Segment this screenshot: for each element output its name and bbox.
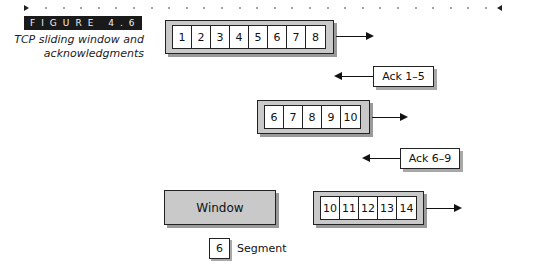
segment: 8 xyxy=(303,106,322,128)
segment: 2 xyxy=(192,26,211,48)
triangle-left-icon xyxy=(497,5,502,11)
segment: 10 xyxy=(321,197,340,219)
segment: 3 xyxy=(211,26,230,48)
arrow-right-icon xyxy=(372,113,408,121)
rule-dot xyxy=(432,7,434,9)
rule-dot xyxy=(327,7,329,9)
segment: 8 xyxy=(306,26,325,48)
rule-dot xyxy=(256,7,258,9)
legend-segment-box: 6 xyxy=(209,238,230,259)
segment-strip-2: 6 7 8 9 10 xyxy=(264,105,361,129)
rule-dot xyxy=(186,7,188,9)
segment: 11 xyxy=(340,197,359,219)
ack-box-2: Ack 6–9 xyxy=(400,148,460,169)
segment: 6 xyxy=(265,106,284,128)
segment: 10 xyxy=(341,106,360,128)
rule-dot xyxy=(362,7,364,9)
rule-dot xyxy=(397,7,399,9)
rule-dot xyxy=(80,7,82,9)
rule-dot xyxy=(239,7,241,9)
window-row-2: 6 7 8 9 10 xyxy=(257,100,370,134)
segment: 12 xyxy=(359,197,378,219)
rule-dot xyxy=(221,7,223,9)
rule-dot xyxy=(450,7,452,9)
segment: 5 xyxy=(249,26,268,48)
figure-caption: TCP sliding window and acknowledgments xyxy=(14,33,144,61)
legend-window-box: Window xyxy=(164,190,276,225)
rule-dot xyxy=(45,7,47,9)
segment: 6 xyxy=(268,26,287,48)
window-row-3: 10 11 12 13 14 xyxy=(313,191,424,225)
ack-box-1: Ack 1–5 xyxy=(373,66,434,87)
rule-dot xyxy=(274,7,276,9)
segment: 1 xyxy=(173,26,192,48)
rule-dot xyxy=(133,7,135,9)
segment: 14 xyxy=(397,197,416,219)
arrow-right-icon xyxy=(336,32,374,40)
segment: 7 xyxy=(287,26,306,48)
segment-strip-1: 1 2 3 4 5 6 7 8 xyxy=(172,25,326,49)
segment-strip-3: 10 11 12 13 14 xyxy=(320,196,417,220)
arrow-right-icon xyxy=(426,204,462,212)
rule-dot xyxy=(309,7,311,9)
rule-dot xyxy=(485,7,487,9)
caption-line-1: TCP sliding window and xyxy=(14,33,144,47)
top-dot-rule xyxy=(0,5,543,11)
rule-dot xyxy=(291,7,293,9)
rule-dot xyxy=(115,7,117,9)
legend-segment-label: Segment xyxy=(237,242,287,255)
rule-dot xyxy=(415,7,417,9)
triangle-right-icon xyxy=(24,5,29,11)
rule-dot xyxy=(203,7,205,9)
segment: 9 xyxy=(322,106,341,128)
segment: 13 xyxy=(378,197,397,219)
rule-dot xyxy=(151,7,153,9)
arrow-left-icon xyxy=(362,154,400,162)
rule-dot xyxy=(168,7,170,9)
segment: 7 xyxy=(284,106,303,128)
window-row-1: 1 2 3 4 5 6 7 8 xyxy=(165,20,334,54)
segment: 4 xyxy=(230,26,249,48)
rule-dot xyxy=(467,7,469,9)
arrow-left-icon xyxy=(334,72,373,80)
rule-dot xyxy=(63,7,65,9)
rule-dot xyxy=(98,7,100,9)
figure-label: FIGURE 4.6 xyxy=(24,16,142,30)
rule-dot xyxy=(379,7,381,9)
caption-line-2: acknowledgments xyxy=(14,47,144,61)
rule-dot xyxy=(344,7,346,9)
